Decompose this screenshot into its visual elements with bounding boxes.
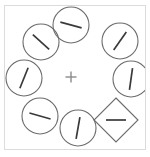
- item-upper-right: [102, 23, 138, 59]
- item-upper-left: [23, 24, 59, 60]
- item-left: [6, 60, 42, 96]
- line-segment: [33, 35, 49, 50]
- item-target-diamond: [94, 98, 138, 142]
- item-lower-left: [22, 98, 58, 134]
- line-segment: [29, 113, 50, 119]
- item-bottom: [60, 110, 96, 146]
- stimulus-display-frame: [4, 5, 146, 150]
- line-segment: [20, 68, 28, 88]
- circle-outline: [113, 61, 145, 97]
- stimulus-canvas: [5, 6, 145, 149]
- cropped-caption-text: [0, 0, 150, 4]
- fixation-cross: [66, 72, 77, 83]
- line-segment: [76, 117, 80, 139]
- item-right: [113, 61, 145, 97]
- line-segment: [60, 22, 81, 28]
- line-segment: [114, 32, 127, 50]
- line-segment: [129, 68, 132, 90]
- screenshot-root: [0, 0, 150, 157]
